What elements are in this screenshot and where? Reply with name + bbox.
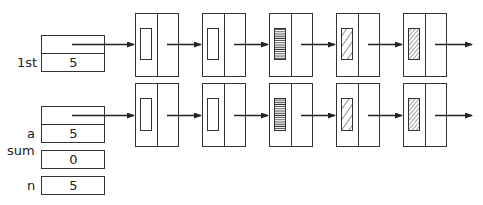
list-node-2 <box>203 84 269 147</box>
node-data-empty <box>208 29 219 60</box>
list-node-1 <box>136 84 202 147</box>
a-label: a <box>27 127 35 140</box>
node-data-horizontal-lines <box>275 99 286 131</box>
a-count-value: 5 <box>42 127 105 140</box>
n-label: n <box>27 179 35 192</box>
lst-node-list <box>136 14 473 77</box>
node-data-diagonal-dense <box>409 99 420 131</box>
list-node-3 <box>270 14 336 77</box>
node-data-diagonal-wide <box>342 99 353 131</box>
node-data-empty <box>208 99 219 131</box>
n-value: 5 <box>42 179 105 192</box>
node-data-empty <box>141 29 152 60</box>
list-node-4 <box>337 84 403 147</box>
lst-label: 1st <box>17 56 37 69</box>
list-node-5 <box>404 14 473 77</box>
list-node-5 <box>404 84 473 147</box>
node-data-empty <box>141 99 152 131</box>
sum-label: sum <box>7 144 35 157</box>
list-node-2 <box>203 14 269 77</box>
list-node-3 <box>270 84 336 147</box>
lst-count-value: 5 <box>42 56 105 69</box>
node-data-diagonal-dense <box>409 29 420 60</box>
node-data-diagonal-wide <box>342 29 353 60</box>
linked-list-diagram <box>0 0 483 205</box>
sum-value: 0 <box>42 153 105 166</box>
list-node-1 <box>136 14 202 77</box>
list-node-4 <box>337 14 403 77</box>
a-node-list <box>136 84 473 147</box>
node-data-horizontal-lines <box>275 29 286 60</box>
